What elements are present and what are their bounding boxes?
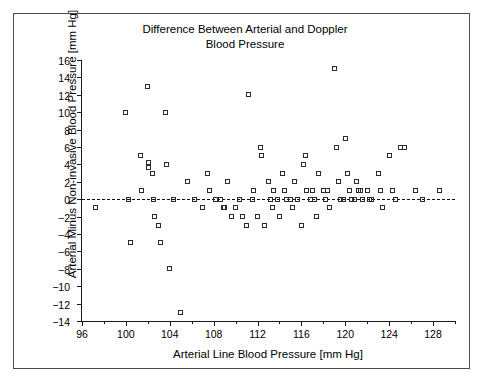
x-axis-minor-tick: [455, 321, 456, 324]
data-point: [354, 179, 359, 184]
x-axis-tick-label: 120: [337, 328, 355, 340]
y-axis-tick-label: −14: [52, 316, 70, 328]
data-point: [420, 197, 425, 202]
x-axis-minor-tick: [148, 321, 149, 324]
x-axis-minor-tick: [236, 321, 237, 324]
data-point: [150, 171, 155, 176]
data-point: [290, 205, 295, 210]
x-axis-tick-label: 108: [205, 328, 223, 340]
x-axis-minor-tick: [367, 321, 368, 324]
x-axis-tick: [82, 321, 83, 326]
x-axis-tick: [433, 321, 434, 326]
data-point: [237, 197, 242, 202]
data-point: [365, 188, 370, 193]
x-axis-tick: [258, 321, 259, 326]
data-point: [336, 179, 341, 184]
data-point: [275, 197, 280, 202]
data-point: [128, 240, 133, 245]
x-axis-tick-label: 124: [380, 328, 398, 340]
data-point: [222, 205, 227, 210]
data-point: [205, 171, 210, 176]
x-axis-tick-label: 128: [424, 328, 442, 340]
data-point: [138, 153, 143, 158]
data-point: [288, 197, 293, 202]
chart-title: Difference Between Arterial and Doppler …: [60, 22, 430, 52]
x-axis-tick-label: 112: [249, 328, 266, 340]
data-point: [378, 188, 383, 193]
data-point: [266, 179, 271, 184]
data-point: [126, 197, 131, 202]
data-point: [295, 197, 300, 202]
data-point: [301, 162, 306, 167]
data-point: [277, 214, 282, 219]
data-point: [93, 205, 98, 210]
x-axis-tick-label: 104: [161, 328, 179, 340]
data-point: [345, 171, 350, 176]
x-axis-minor-tick: [104, 321, 105, 324]
data-point: [178, 310, 183, 315]
x-axis-tick: [170, 321, 171, 326]
x-axis-minor-tick: [279, 321, 280, 324]
data-point: [164, 162, 169, 167]
plot-area: −14−12−10−8−6−4−202468101214169610010410…: [81, 60, 455, 322]
data-point: [258, 145, 263, 150]
data-point: [327, 205, 332, 210]
data-point: [390, 188, 395, 193]
figure-container: Difference Between Arterial and Doppler …: [0, 0, 482, 386]
data-point: [360, 197, 365, 202]
data-point: [171, 197, 176, 202]
data-point: [282, 188, 287, 193]
x-axis-tick: [345, 321, 346, 326]
x-axis-tick-label: 96: [76, 328, 88, 340]
x-axis-tick: [214, 321, 215, 326]
data-point: [380, 205, 385, 210]
x-axis-title: Arterial Line Blood Pressure [mm Hg]: [81, 348, 455, 360]
data-point: [151, 197, 156, 202]
data-point: [341, 197, 346, 202]
data-point: [200, 205, 205, 210]
data-point: [413, 188, 418, 193]
y-axis-tick-label: −12: [52, 299, 70, 311]
data-point: [352, 197, 357, 202]
data-point: [268, 197, 273, 202]
data-point: [207, 188, 212, 193]
data-point: [139, 188, 144, 193]
data-point: [437, 188, 442, 193]
data-point: [244, 223, 249, 228]
data-point: [332, 66, 337, 71]
x-axis-tick-label: 100: [117, 328, 135, 340]
data-point: [167, 266, 172, 271]
data-point: [233, 205, 238, 210]
y-axis-tick: −12: [77, 304, 82, 305]
data-point: [347, 188, 352, 193]
data-point: [262, 223, 267, 228]
x-axis-tick-label: 116: [293, 328, 310, 340]
data-point: [314, 214, 319, 219]
data-point: [393, 197, 398, 202]
data-point: [156, 223, 161, 228]
data-point: [152, 214, 157, 219]
data-point: [146, 160, 151, 165]
data-point: [334, 145, 339, 150]
x-axis-tick: [126, 321, 127, 326]
data-point: [158, 240, 163, 245]
x-axis-tick: [301, 321, 302, 326]
data-point: [323, 197, 328, 202]
data-point: [259, 153, 264, 158]
data-point: [376, 171, 381, 176]
data-point: [271, 188, 276, 193]
data-point: [325, 188, 330, 193]
x-axis-minor-tick: [323, 321, 324, 324]
data-point: [192, 197, 197, 202]
data-point: [402, 145, 407, 150]
data-point: [280, 171, 285, 176]
data-point: [185, 179, 190, 184]
data-point: [163, 110, 168, 115]
data-point: [310, 188, 315, 193]
data-point: [316, 171, 321, 176]
data-point: [145, 84, 150, 89]
data-point: [123, 110, 128, 115]
data-point: [358, 188, 363, 193]
data-point: [229, 214, 234, 219]
data-point: [303, 153, 308, 158]
